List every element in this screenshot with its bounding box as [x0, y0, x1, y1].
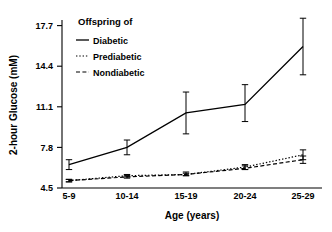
y-axis-tick-labels: 4.5 7.8 11.1 14.4 17.7	[35, 21, 53, 193]
x-axis-tick-labels: 5-9 10-14 15-19 20-24 25-29	[62, 191, 314, 201]
y-tick-label-2: 11.1	[36, 102, 53, 112]
series-line-prediabetic	[69, 155, 303, 181]
series-nondiabetic	[66, 156, 306, 182]
error-bar	[300, 18, 306, 75]
legend-label-diabetic: Diabetic	[93, 36, 128, 46]
x-tick-label-0: 5-9	[62, 191, 75, 201]
x-tick-label-2: 15-19	[174, 191, 197, 201]
legend-title: Offspring of	[78, 16, 133, 27]
y-axis-ticks	[57, 26, 62, 188]
x-tick-label-1: 10-14	[115, 191, 138, 201]
x-tick-label-4: 25-29	[291, 191, 314, 201]
series-line-nondiabetic	[69, 160, 303, 181]
chart-figure: 2-hour Glucose (mM) 4.5 7.8 11.1 14.4 17…	[0, 0, 332, 232]
legend-label-prediabetic: Prediabetic	[93, 52, 142, 62]
error-bar	[242, 85, 248, 122]
line-chart-canvas: 2-hour Glucose (mM) 4.5 7.8 11.1 14.4 17…	[0, 0, 332, 232]
x-axis-title: Age (years)	[165, 210, 219, 221]
y-axis-title: 2-hour Glucose (mM)	[8, 55, 19, 155]
y-tick-label-1: 7.8	[40, 143, 53, 153]
x-tick-label-3: 20-24	[233, 191, 256, 201]
y-tick-label-4: 17.7	[35, 21, 53, 31]
chart-legend: Offspring of Diabetic Prediabetic Nondia…	[76, 16, 145, 78]
y-tick-label-0: 4.5	[40, 183, 53, 193]
legend-label-nondiabetic: Nondiabetic	[93, 68, 145, 78]
y-tick-label-3: 14.4	[35, 61, 53, 71]
